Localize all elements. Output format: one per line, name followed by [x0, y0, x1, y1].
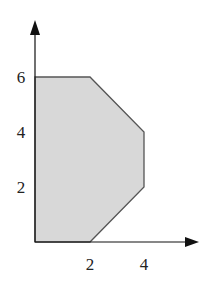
x-tick-4: 4	[140, 255, 149, 274]
y-tick-4: 4	[17, 123, 26, 142]
x-tick-2: 2	[86, 255, 95, 274]
y-tick-2: 2	[17, 178, 26, 197]
y-tick-6: 6	[17, 68, 26, 87]
y-axis-arrow-icon	[30, 20, 40, 35]
feasible-region-diagram: 2 4 2 4 6	[0, 0, 213, 285]
shaded-region	[35, 77, 144, 242]
x-axis-arrow-icon	[185, 237, 199, 247]
